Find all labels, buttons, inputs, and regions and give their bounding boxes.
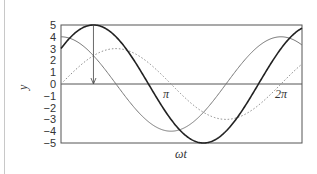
y-axis-label: y xyxy=(16,84,30,91)
y-tick-label: −1 xyxy=(43,90,56,102)
x-axis-label: ωt xyxy=(175,147,187,161)
y-tick-label: 0 xyxy=(50,78,56,90)
y-tick-label: −4 xyxy=(43,125,56,137)
y-tick-label: 4 xyxy=(50,31,56,43)
two-pi-label: 2π xyxy=(275,87,288,101)
y-tick-label: 5 xyxy=(50,19,56,31)
y-tick-label: 1 xyxy=(50,66,56,78)
phasor-sum-chart: 543210−1−2−3−4−5 π 2π ωt y xyxy=(0,0,317,174)
y-tick-label: −3 xyxy=(43,113,56,125)
y-tick-label: 3 xyxy=(50,43,56,55)
y-tick-label: −5 xyxy=(43,137,56,149)
y-tick-label: −2 xyxy=(43,102,56,114)
pi-label: π xyxy=(163,87,170,101)
y-tick-label: 2 xyxy=(50,54,56,66)
y-tick-labels: 543210−1−2−3−4−5 xyxy=(43,19,56,149)
